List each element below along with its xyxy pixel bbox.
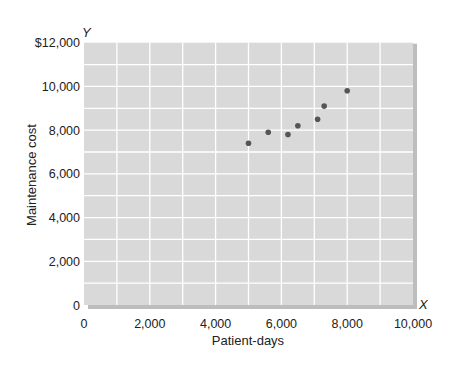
y-axis-ticks: 02,0004,0006,0008,00010,000$12,000	[35, 36, 80, 312]
x-tick-label: 0	[81, 317, 88, 331]
y-tick-label: 4,000	[49, 211, 80, 225]
y-axis-letter: Y	[82, 25, 92, 40]
x-axis-label: Patient-days	[212, 333, 285, 348]
data-point	[265, 130, 271, 136]
y-tick-label: 10,000	[42, 80, 80, 94]
x-axis-ticks: 02,0004,0006,0008,00010,000	[81, 317, 433, 331]
x-tick-label: 6,000	[266, 317, 297, 331]
scatter-chart: 02,0004,0006,0008,00010,000 02,0004,0006…	[0, 0, 459, 370]
x-tick-label: 2,000	[134, 317, 165, 331]
y-axis-label: Maintenance cost	[24, 124, 39, 226]
y-tick-label: $12,000	[35, 36, 80, 50]
data-point	[246, 140, 252, 146]
data-point	[315, 116, 321, 122]
y-tick-label: 6,000	[49, 167, 80, 181]
data-point	[285, 132, 291, 138]
data-point	[321, 103, 327, 109]
x-tick-label: 4,000	[200, 317, 231, 331]
y-tick-label: 8,000	[49, 124, 80, 138]
y-tick-label: 0	[73, 299, 80, 313]
x-tick-label: 8,000	[332, 317, 363, 331]
x-tick-label: 10,000	[394, 317, 432, 331]
x-axis-letter: X	[418, 297, 429, 312]
data-point	[344, 88, 350, 94]
data-point	[295, 123, 301, 129]
shadow-right	[413, 44, 417, 309]
y-tick-label: 2,000	[49, 255, 80, 269]
shadow-bottom	[88, 305, 417, 309]
